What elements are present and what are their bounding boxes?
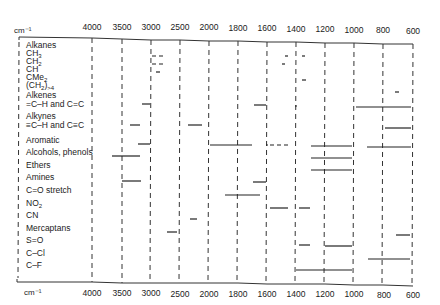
absorption-bands bbox=[112, 56, 411, 270]
tick-600-bottom: 600 bbox=[406, 290, 420, 300]
tick-2500-bottom: 2500 bbox=[171, 289, 190, 299]
tick-3000-top: 3000 bbox=[142, 22, 161, 32]
tick-1800-top: 1800 bbox=[229, 23, 248, 33]
tick-3500-top: 3500 bbox=[113, 22, 132, 32]
tick-1600-top: 1600 bbox=[258, 23, 277, 33]
tick-1200-top: 1200 bbox=[316, 24, 335, 34]
unit-label-top: cm⁻¹ bbox=[14, 26, 32, 35]
tick-2000-top: 2000 bbox=[200, 22, 219, 32]
label-cn: CN bbox=[26, 210, 38, 220]
gridlines bbox=[18, 38, 413, 286]
tick-2500-top: 2500 bbox=[171, 22, 190, 32]
top-axis: cm⁻¹ 4000 3500 3000 2500 2000 1800 1600 … bbox=[14, 22, 420, 44]
row-labels: Alkanes CH3 CH2 CH CMe2 (CH2)>4 Alkenes … bbox=[26, 40, 93, 270]
label-cf: C–F bbox=[26, 260, 42, 270]
tick-3500-bottom: 3500 bbox=[113, 288, 132, 298]
tick-1600-bottom: 1600 bbox=[258, 289, 277, 299]
tick-800-bottom: 800 bbox=[377, 290, 391, 300]
tick-1400-bottom: 1400 bbox=[287, 289, 306, 299]
label-amines: Amines bbox=[26, 172, 54, 182]
tick-4000-bottom: 4000 bbox=[83, 288, 102, 298]
label-alcohols: Alcohols, phenols bbox=[26, 147, 93, 157]
label-ccl: C–Cl bbox=[26, 248, 45, 258]
label-alkenes-detail: =C–H and C=C bbox=[26, 99, 84, 109]
tick-1000-top: 1000 bbox=[345, 25, 364, 35]
tick-1200-bottom: 1200 bbox=[316, 289, 335, 299]
ir-correlation-chart: cm⁻¹ 4000 3500 3000 2500 2000 1800 1600 … bbox=[0, 0, 440, 305]
tick-3000-bottom: 3000 bbox=[142, 288, 161, 298]
tick-4000-top: 4000 bbox=[83, 22, 102, 32]
label-alkynes-detail: ≡C–H and C≡C bbox=[26, 120, 84, 130]
tick-600-top: 600 bbox=[406, 26, 420, 36]
tick-1800-bottom: 1800 bbox=[229, 289, 248, 299]
label-aromatic: Aromatic bbox=[26, 135, 60, 145]
tick-800-top: 800 bbox=[376, 25, 390, 35]
bottom-axis: cm⁻¹ 4000 3500 3000 2500 2000 1800 1600 … bbox=[17, 279, 420, 300]
tick-1000-bottom: 1000 bbox=[345, 289, 364, 299]
label-mercaptans: Mercaptans bbox=[26, 223, 70, 233]
tick-1400-top: 1400 bbox=[287, 24, 306, 34]
unit-label-bottom: cm⁻¹ bbox=[24, 288, 42, 297]
tick-2000-bottom: 2000 bbox=[200, 289, 219, 299]
label-ethers: Ethers bbox=[26, 160, 51, 170]
label-carbonyl: C=O stretch bbox=[26, 185, 72, 195]
label-no2: NO2 bbox=[26, 198, 43, 209]
label-so: S=O bbox=[26, 235, 44, 245]
